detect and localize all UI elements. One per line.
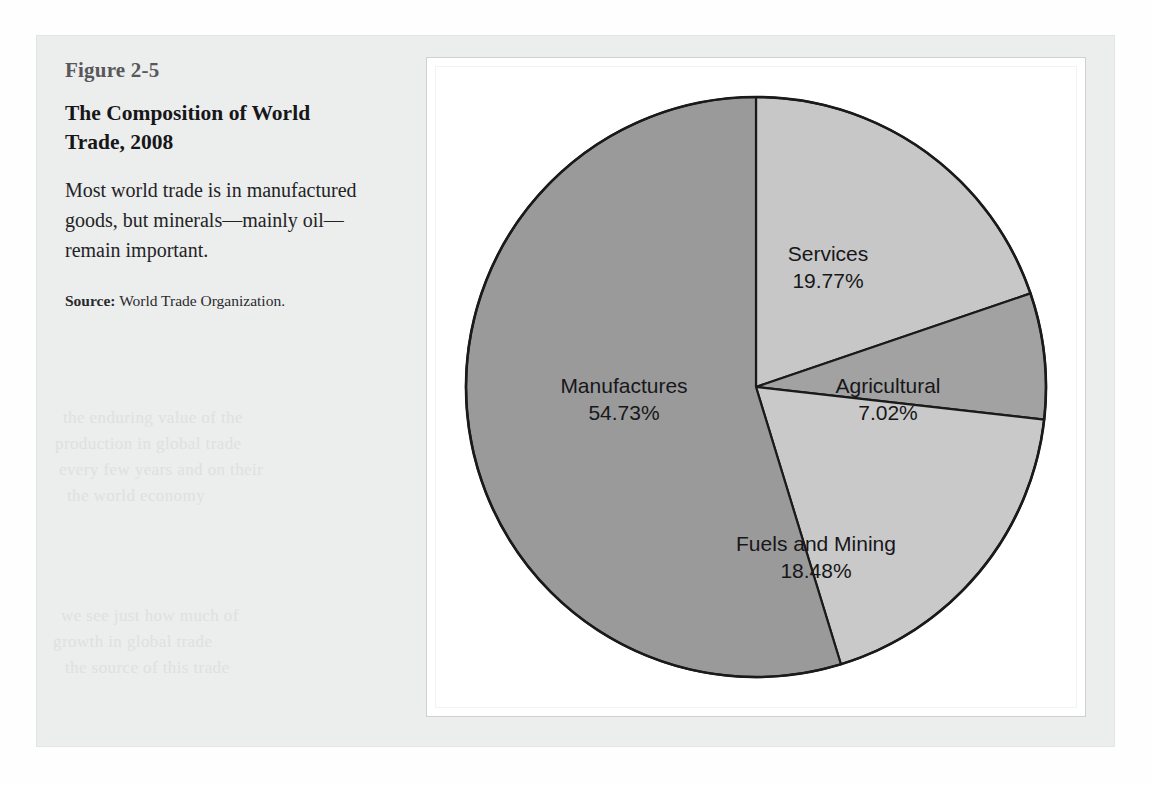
ghost-text-line1: the enduring value of the	[63, 408, 243, 428]
pie-label-name-manufactures: Manufactures	[560, 374, 687, 397]
ghost-text-line5: we see just how much of	[61, 606, 239, 626]
figure-description: Most world trade is in manufactured good…	[65, 175, 365, 265]
caption-column: Figure 2-5 The Composition of World Trad…	[65, 58, 415, 311]
figure-source-label: Source:	[65, 292, 116, 309]
pie-label-value-services: 19.77%	[792, 269, 863, 292]
figure-source: Source: World Trade Organization.	[65, 291, 395, 311]
ghost-text-line4: the world economy	[67, 486, 205, 506]
ghost-text-line3: every few years and on their	[59, 460, 263, 480]
ghost-text-line7: the source of this trade	[65, 658, 229, 678]
pie-label-name-services: Services	[788, 242, 869, 265]
figure-source-text: World Trade Organization.	[119, 292, 285, 309]
ghost-text-line2: production in global trade	[55, 434, 242, 454]
pie-label-value-agricultural: 7.02%	[858, 401, 918, 424]
figure-number: Figure 2-5	[65, 58, 415, 83]
chart-panel: Services19.77%Agricultural7.02%Fuels and…	[426, 57, 1086, 717]
figure-title: The Composition of World Trade, 2008	[65, 99, 365, 157]
ghost-text-line6: growth in global trade	[53, 632, 212, 652]
chart-plot-area: Services19.77%Agricultural7.02%Fuels and…	[435, 66, 1077, 708]
pie-chart: Services19.77%Agricultural7.02%Fuels and…	[456, 95, 1056, 679]
pie-label-value-manufactures: 54.73%	[588, 401, 659, 424]
pie-label-value-fuels-and-mining: 18.48%	[780, 559, 851, 582]
pie-label-name-agricultural: Agricultural	[835, 374, 940, 397]
figure-root: the enduring value of the production in …	[0, 0, 1151, 785]
pie-slice-group	[466, 97, 1046, 677]
figure-panel: the enduring value of the production in …	[37, 36, 1114, 746]
pie-label-name-fuels-and-mining: Fuels and Mining	[736, 532, 896, 555]
